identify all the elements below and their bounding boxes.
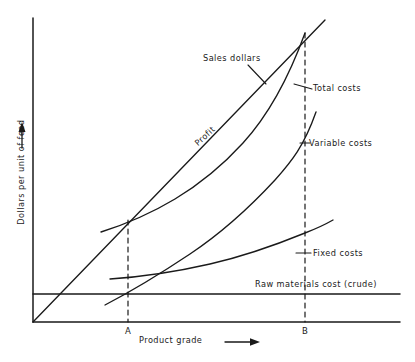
series-label-fixed-costs: Fixed costs xyxy=(313,249,363,257)
sales-dollars-line xyxy=(33,20,325,322)
x-tick-label-b: B xyxy=(302,327,308,336)
y-axis-label: Dollars per unit of feed xyxy=(17,107,25,237)
series-label-sales-dollars: Sales dollars xyxy=(203,54,261,62)
series-label-total-costs: Total costs xyxy=(313,84,361,92)
x-tick-label-a: A xyxy=(125,327,131,336)
total-costs-leader xyxy=(294,84,312,89)
series-label-variable-costs: Variable costs xyxy=(309,139,372,147)
series-label-raw-materials-cost: Raw materials cost (crude) xyxy=(255,280,377,288)
x-axis-label: Product grade xyxy=(139,336,202,344)
chart-figure: Dollars per unit of feed Product grade S… xyxy=(0,0,415,362)
sales-dollars-leader xyxy=(248,65,266,84)
x-axis-arrow xyxy=(225,338,260,346)
fixed-costs-curve xyxy=(110,220,333,279)
